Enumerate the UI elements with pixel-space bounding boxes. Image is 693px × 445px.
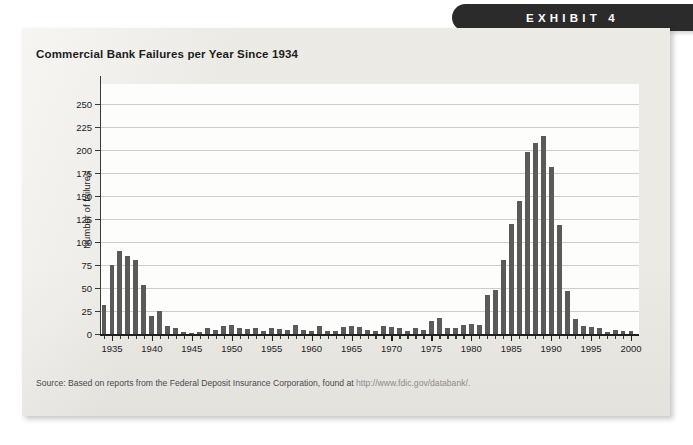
bar xyxy=(293,325,298,334)
x-minor-tick xyxy=(168,336,169,339)
x-minor-tick xyxy=(527,336,528,339)
y-axis-title: Number of failures xyxy=(81,171,92,249)
x-minor-tick xyxy=(479,336,480,339)
bar xyxy=(565,291,570,334)
x-minor-tick xyxy=(344,336,345,339)
bar xyxy=(533,143,538,334)
x-tick-label: 1940 xyxy=(141,343,162,354)
x-minor-tick xyxy=(328,336,329,339)
x-minor-tick xyxy=(304,336,305,339)
y-tick-label: 25 xyxy=(81,306,92,317)
x-tick-label: 1960 xyxy=(301,343,322,354)
y-tick-label: 225 xyxy=(76,122,92,133)
bar xyxy=(429,321,434,334)
x-tick-label: 1965 xyxy=(341,343,362,354)
x-tick-label: 1935 xyxy=(101,343,122,354)
y-tick-label: 0 xyxy=(87,329,92,340)
bar xyxy=(141,285,146,334)
x-minor-tick xyxy=(575,336,576,339)
x-minor-tick xyxy=(583,336,584,339)
x-minor-tick xyxy=(176,336,177,339)
x-tick-mark xyxy=(112,336,113,341)
x-tick-mark xyxy=(232,336,233,341)
x-tick-mark xyxy=(352,336,353,341)
bar xyxy=(477,325,482,334)
x-minor-tick xyxy=(120,336,121,339)
bar xyxy=(589,327,594,334)
x-minor-tick xyxy=(160,336,161,339)
bar xyxy=(389,327,394,334)
bar xyxy=(573,319,578,334)
x-minor-tick xyxy=(184,336,185,339)
x-tick-label: 1970 xyxy=(381,343,402,354)
x-minor-tick xyxy=(280,336,281,339)
x-minor-tick xyxy=(607,336,608,339)
bar xyxy=(357,327,362,334)
exhibit-banner-label: EXHIBIT 4 xyxy=(526,12,619,24)
x-minor-tick xyxy=(375,336,376,339)
x-tick-label: 1975 xyxy=(421,343,442,354)
x-minor-tick xyxy=(360,336,361,339)
bar xyxy=(493,290,498,334)
x-minor-tick xyxy=(447,336,448,339)
x-minor-tick xyxy=(415,336,416,339)
x-minor-tick xyxy=(455,336,456,339)
bar xyxy=(117,251,122,334)
bar xyxy=(229,325,234,334)
x-minor-tick xyxy=(399,336,400,339)
x-minor-tick xyxy=(200,336,201,339)
x-tick-mark xyxy=(272,336,273,341)
y-tick-label: 200 xyxy=(76,145,92,156)
x-tick-label: 1955 xyxy=(261,343,282,354)
bar xyxy=(149,316,154,334)
bar xyxy=(381,326,386,334)
x-tick-mark xyxy=(192,336,193,341)
bar xyxy=(133,260,138,334)
x-minor-tick xyxy=(296,336,297,339)
x-minor-tick xyxy=(368,336,369,339)
x-tick-label: 2000 xyxy=(620,343,641,354)
exhibit-banner: EXHIBIT 4 xyxy=(452,4,693,31)
bar xyxy=(341,327,346,334)
bar xyxy=(581,326,586,334)
x-tick-mark xyxy=(312,336,313,341)
source-url: http://www.fdic.gov/databank/. xyxy=(356,378,470,388)
bar xyxy=(469,324,474,334)
bar xyxy=(525,152,530,334)
x-minor-tick xyxy=(615,336,616,339)
x-tick-label: 1945 xyxy=(181,343,202,354)
x-minor-tick xyxy=(599,336,600,339)
x-minor-tick xyxy=(535,336,536,339)
x-minor-tick xyxy=(136,336,137,339)
x-tick-label: 1990 xyxy=(541,343,562,354)
source-note: Source: Based on reports from the Federa… xyxy=(36,378,470,388)
y-tick-label: 50 xyxy=(81,283,92,294)
chart-plot: 0255075100125150175200225250 Number of f… xyxy=(100,84,639,336)
bar xyxy=(541,136,546,334)
x-tick-label: 1980 xyxy=(461,343,482,354)
bar xyxy=(110,265,115,334)
x-minor-tick xyxy=(503,336,504,339)
bar xyxy=(549,167,554,334)
x-minor-tick xyxy=(383,336,384,339)
x-minor-tick xyxy=(623,336,624,339)
bar xyxy=(461,325,466,334)
x-minor-tick xyxy=(567,336,568,339)
bar xyxy=(437,318,442,334)
x-minor-tick xyxy=(104,336,105,339)
bar xyxy=(102,305,107,334)
x-tick-mark xyxy=(471,336,472,341)
bar xyxy=(349,326,354,334)
x-tick-mark xyxy=(591,336,592,341)
x-tick-mark xyxy=(511,336,512,341)
x-minor-tick xyxy=(559,336,560,339)
x-minor-tick xyxy=(320,336,321,339)
bar xyxy=(157,311,162,334)
x-minor-tick xyxy=(216,336,217,339)
y-tick-label: 75 xyxy=(81,260,92,271)
x-tick-mark xyxy=(391,336,392,341)
bar xyxy=(125,256,130,334)
bar xyxy=(517,201,522,334)
x-minor-tick xyxy=(256,336,257,339)
x-minor-tick xyxy=(519,336,520,339)
